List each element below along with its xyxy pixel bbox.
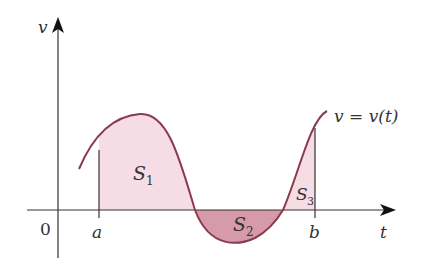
v-axis-label: v [38,17,48,37]
velocity-area-diagram: v t 0 a b v = v(t) S 1 S 2 S 3 [0,0,430,268]
origin-label: 0 [40,219,51,239]
svg-text:S: S [233,213,246,235]
svg-text:2: 2 [246,225,254,239]
b-label: b [309,222,320,242]
a-label: a [92,222,102,242]
svg-text:S: S [296,184,308,204]
svg-text:S: S [133,162,146,184]
curve-label: v = v(t) [334,106,398,126]
t-axis-label: t [380,222,387,242]
svg-text:3: 3 [307,195,314,208]
svg-text:1: 1 [146,174,154,188]
